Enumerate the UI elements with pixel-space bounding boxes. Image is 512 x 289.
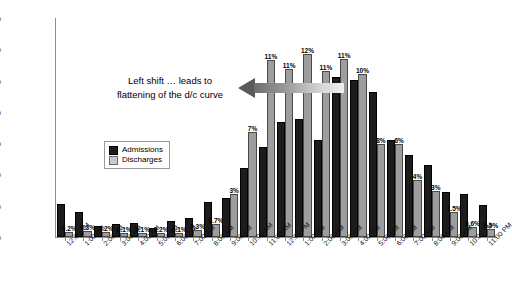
x-tick-label: 9:00 AM — [221, 240, 239, 289]
bar-group: 0.1% — [166, 18, 184, 237]
x-tick-label: 8:00 AM — [203, 240, 221, 289]
bar-value-label: 7% — [248, 125, 257, 132]
x-tick-label: 8:00 PM — [423, 240, 441, 289]
x-tick-label: 10:00 AM — [239, 240, 257, 289]
y-tick-label: 0% — [0, 233, 1, 242]
bar-admissions — [277, 122, 285, 237]
bar-group: 0.3% — [74, 18, 92, 237]
bar-group: 11% — [313, 18, 331, 237]
x-tick-label: 5:00 AM — [148, 240, 166, 289]
annotation-line-2: flattening of the d/c curve — [96, 88, 244, 102]
bar-group: 6% — [386, 18, 404, 237]
x-tick-label: 9:00 PM — [441, 240, 459, 289]
x-tick-label: 11:00 PM — [478, 240, 496, 289]
bar-group: 10% — [349, 18, 367, 237]
annotation-line-1: Left shift … leads to — [96, 74, 244, 88]
bar-group: 3% — [221, 18, 239, 237]
bar-group: 0.2% — [148, 18, 166, 237]
bar-group: 1.5% — [441, 18, 459, 237]
bar-admissions — [387, 140, 395, 237]
x-tick-label: 7:00 AM — [184, 240, 202, 289]
bar-group: 0.6% — [459, 18, 477, 237]
bar-group: 11% — [276, 18, 294, 237]
x-tick-label: 10:00 PM — [459, 240, 477, 289]
bar-admissions — [295, 119, 303, 237]
bar-group: 0.1% — [129, 18, 147, 237]
bar-discharges: 10% — [358, 74, 366, 237]
bar-group: 0.5% — [478, 18, 496, 237]
bar-admissions — [57, 204, 65, 237]
bar-group: 3% — [423, 18, 441, 237]
legend-label-discharges: Discharges — [122, 155, 162, 165]
y-tick-label: 6% — [0, 139, 1, 148]
bar-discharges: 7% — [248, 132, 256, 237]
x-tick-label: 3:00 PM — [331, 240, 349, 289]
bar-discharges: 8% — [377, 144, 385, 237]
left-shift-arrow-icon — [238, 78, 344, 98]
bar-group: 0.1% — [111, 18, 129, 237]
bar-group: 11% — [258, 18, 276, 237]
bar-admissions — [332, 77, 340, 237]
y-tick-label: 8% — [0, 107, 1, 116]
arrow-head — [238, 78, 255, 98]
x-tick-label: 4:00 AM — [129, 240, 147, 289]
x-tick-label: 6:00 AM — [166, 240, 184, 289]
bar-value-label: 6% — [394, 137, 403, 144]
plot-area: 0.2%0.3%0.2%0.1%0.1%0.2%0.1%0.3%0.7%3%7%… — [56, 18, 496, 237]
x-tick-label: 2:00 AM — [93, 240, 111, 289]
bar-admissions — [314, 140, 322, 237]
legend-swatch-discharges — [109, 156, 118, 165]
annotation-text: Left shift … leads to flattening of the … — [96, 74, 244, 102]
legend-swatch-admissions — [109, 146, 118, 155]
bar-group: 0.2% — [93, 18, 111, 237]
bar-group: 0.2% — [56, 18, 74, 237]
x-tick-label: 7:00 PM — [404, 240, 422, 289]
y-tick-label: 2% — [0, 201, 1, 210]
legend: Admissions Discharges — [104, 141, 170, 169]
bar-value-label: 3% — [431, 184, 440, 191]
y-tick-label: 4% — [0, 170, 1, 179]
bar-value-label: 4% — [413, 173, 422, 180]
bar-group: 12% — [294, 18, 312, 237]
x-tick-label: 12:00 PM — [276, 240, 294, 289]
x-tick-label: 1:00 PM — [294, 240, 312, 289]
bar-groups: 0.2%0.3%0.2%0.1%0.1%0.2%0.1%0.3%0.7%3%7%… — [56, 18, 496, 237]
y-tick-label: 10% — [0, 76, 1, 85]
bar-group: 11% — [331, 18, 349, 237]
x-tick-label: 6:00 PM — [386, 240, 404, 289]
legend-item-discharges: Discharges — [109, 155, 163, 165]
bar-group: 7% — [239, 18, 257, 237]
x-axis-labels: 12:00 AM1:00 AM2:00 AM3:00 AM4:00 AM5:00… — [56, 240, 496, 289]
bar-group: 0.7% — [203, 18, 221, 237]
x-tick-label: 11:00 AM — [258, 240, 276, 289]
x-tick-label: 2:00 PM — [313, 240, 331, 289]
legend-label-admissions: Admissions — [122, 145, 163, 155]
bar-admissions — [350, 80, 358, 237]
arrow-tail — [254, 83, 344, 93]
x-tick-label: 5:00 PM — [368, 240, 386, 289]
x-tick-label: 3:00 AM — [111, 240, 129, 289]
bar-value-label: 8% — [376, 137, 385, 144]
legend-item-admissions: Admissions — [109, 145, 163, 155]
bar-group: 8% — [368, 18, 386, 237]
bar-group: 4% — [404, 18, 422, 237]
x-tick-label: 12:00 AM — [56, 240, 74, 289]
bar-admissions — [369, 92, 377, 237]
y-tick-label: 12% — [0, 45, 1, 54]
y-tick-label: 14% — [0, 14, 1, 23]
bar-value-label: 3% — [230, 187, 239, 194]
bar-group: 0.3% — [184, 18, 202, 237]
x-tick-label: 4:00 PM — [349, 240, 367, 289]
x-tick-label: 1:00 AM — [74, 240, 92, 289]
bar-discharges: 6% — [395, 144, 403, 237]
